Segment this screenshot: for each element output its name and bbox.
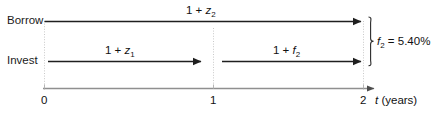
forward-rate-brace bbox=[369, 17, 374, 66]
axis-tick-label-1: 1 bbox=[210, 95, 216, 107]
invest-first-label-subscript: 1 bbox=[130, 50, 134, 59]
forward-rate-annotation: f2 = 5.40% bbox=[377, 36, 430, 48]
borrow-label-subscript: 2 bbox=[211, 10, 215, 19]
guide-lines bbox=[45, 21, 364, 90]
row-label-borrow: Borrow bbox=[7, 15, 43, 27]
invest-second-label-subscript: 2 bbox=[296, 50, 300, 59]
forward-rate-subscript: 2 bbox=[380, 41, 384, 50]
row-label-invest: Invest bbox=[7, 55, 38, 67]
diagram-canvas bbox=[0, 0, 434, 113]
axis-unit-text: (years) bbox=[381, 94, 417, 106]
borrow-label-prefix: 1 + bbox=[186, 4, 206, 16]
borrow-arrow-label: 1 + z2 bbox=[186, 5, 216, 17]
invest-second-arrow-label: 1 + f2 bbox=[273, 45, 300, 57]
invest-first-arrow-label: 1 + z1 bbox=[105, 45, 135, 57]
forward-rate-equals: = bbox=[385, 35, 398, 47]
timeline-diagram: Borrow Invest 1 + z2 1 + z1 1 + f2 f2 = … bbox=[0, 0, 434, 113]
forward-rate-value: 5.40% bbox=[398, 35, 431, 47]
axis-tick-label-0: 0 bbox=[41, 95, 47, 107]
axis-variable-label: t (years) bbox=[375, 95, 417, 107]
invest-second-label-prefix: 1 + bbox=[273, 44, 293, 56]
axis-tick-label-2: 2 bbox=[360, 95, 366, 107]
invest-first-label-prefix: 1 + bbox=[105, 44, 125, 56]
